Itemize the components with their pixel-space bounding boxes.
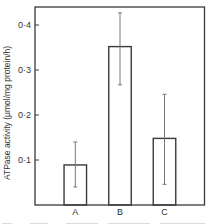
x-axis-labels: ABC — [72, 207, 168, 217]
x-tick-label: A — [72, 207, 78, 217]
x-tick-label: B — [117, 207, 123, 217]
error-bars — [73, 13, 166, 187]
y-tick-label: 0·2 — [18, 110, 31, 120]
y-axis-ticks: 0·10·20·30·4 — [18, 20, 39, 165]
y-tick-label: 0·3 — [18, 65, 31, 75]
bar-chart: 0·10·20·30·4 ABC ATPase activity (μmol/m… — [0, 0, 215, 224]
x-tick-label: C — [161, 207, 168, 217]
y-axis-label: ATPase activity (μmol/mg protein/h) — [2, 46, 12, 180]
y-tick-label: 0·1 — [18, 155, 31, 165]
y-tick-label: 0·4 — [18, 20, 31, 30]
